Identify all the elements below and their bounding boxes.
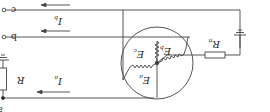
- resistor-r-label: R: [17, 75, 26, 86]
- emf-ea-label: Ea: [139, 74, 151, 86]
- resistor-rn-label: Rn: [208, 38, 221, 50]
- terminal-c-label: c: [11, 5, 16, 15]
- current-ib-label: Ib: [54, 15, 63, 27]
- terminal-b-circle: [2, 35, 6, 39]
- terminal-a-label: a: [0, 105, 3, 112]
- emf-eb-label: Eb: [160, 45, 172, 57]
- terminal-b-label: b: [11, 32, 17, 42]
- arrow-ia: [37, 90, 70, 93]
- winding-a: [155, 41, 159, 98]
- current-ia-label: Ia: [54, 75, 63, 87]
- arrow-ic: [41, 3, 70, 6]
- arrow-ib: [41, 29, 70, 32]
- emf-ec-label: Ec: [133, 48, 145, 60]
- resistor-r: [0, 55, 9, 98]
- three-phase-circuit-diagram: a b c R Ia Ib I Ic Ea Eb Ec Rn: [0, 0, 270, 112]
- terminal-c-circle: [2, 8, 6, 12]
